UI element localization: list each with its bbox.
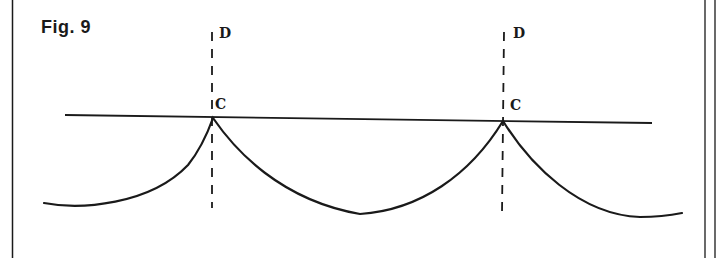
cusp-curve [44, 118, 682, 217]
label-d-right: D [513, 25, 525, 41]
label-c-left: C [215, 96, 226, 112]
horizontal-line [65, 115, 652, 123]
label-c-right: C [510, 97, 521, 113]
figure-canvas [0, 0, 720, 258]
label-d-left: D [219, 25, 231, 41]
figure-title: Fig. 9 [41, 17, 91, 38]
